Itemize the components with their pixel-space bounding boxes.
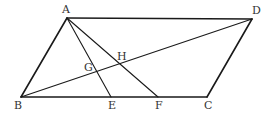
- point-label-g: G: [84, 61, 93, 74]
- point-label-e: E: [108, 99, 116, 112]
- segment-ae: [67, 18, 111, 97]
- point-label-d: D: [252, 4, 261, 17]
- side-dc: [207, 19, 252, 97]
- point-label-a: A: [61, 3, 71, 16]
- point-label-b: B: [14, 99, 22, 112]
- side-ad: [67, 18, 252, 19]
- diagonal-bd: [21, 19, 252, 97]
- point-label-c: C: [204, 99, 212, 112]
- segments: [21, 18, 252, 97]
- side-ba: [21, 18, 67, 97]
- point-label-h: H: [117, 50, 127, 63]
- point-label-f: F: [155, 99, 163, 112]
- segment-af: [67, 18, 158, 97]
- geometry-diagram: ABCDEFGH: [0, 0, 268, 118]
